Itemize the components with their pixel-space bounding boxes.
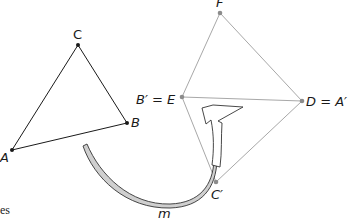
point-D: [300, 99, 305, 104]
point-B: [125, 121, 129, 125]
label-C: C: [73, 27, 82, 42]
original-triangle: [12, 45, 127, 150]
point-C-prime: [214, 180, 219, 185]
segment-FE: [182, 13, 220, 97]
arrow-band-gray: [83, 144, 217, 208]
point-E: [180, 95, 185, 100]
label-B: B: [131, 115, 140, 130]
label-C-prime: C′: [211, 187, 223, 202]
label-F: F: [216, 0, 224, 10]
label-A: A: [0, 150, 9, 165]
point-A: [10, 148, 14, 152]
caption-fragment: es: [0, 203, 10, 217]
segment-AB: [12, 123, 127, 150]
image-figure: [182, 13, 302, 182]
label-E: B′ = E: [136, 92, 176, 107]
segment-CB: [78, 45, 127, 123]
geometry-diagram: C B A F B′ = E D = A′ C′ m es: [0, 0, 355, 222]
segment-FD: [220, 13, 302, 101]
label-D: D = A′: [306, 94, 347, 109]
point-F: [218, 11, 223, 16]
label-m: m: [158, 206, 171, 221]
segment-ED: [182, 97, 302, 101]
arrow-shaft-white: [202, 105, 243, 167]
segment-CA: [12, 45, 78, 150]
point-C: [76, 43, 80, 47]
